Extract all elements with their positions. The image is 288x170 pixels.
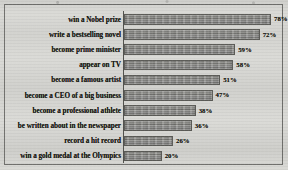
category-label: be written about in the newspaper (0, 122, 121, 130)
bar-with-value: 59% (124, 44, 252, 55)
bar-value-label: 36% (195, 122, 209, 130)
bar (124, 14, 271, 25)
category-label: record a hit record (0, 137, 121, 145)
category-label: win a Nobel prize (0, 16, 121, 24)
bar-row: become a famous artist51% (10, 73, 287, 88)
bar-row: win a gold medal at the Olympics20% (10, 149, 287, 164)
chart-frame: win a Nobel prize78%write a bestselling … (4, 4, 283, 165)
bar-row: be written about in the newspaper36% (10, 118, 287, 133)
category-label: become a CEO of a big business (0, 92, 121, 100)
bar (124, 90, 213, 101)
bar-value-label: 58% (236, 61, 250, 69)
bar-value-label: 51% (223, 76, 237, 84)
bar-value-label: 47% (216, 91, 230, 99)
bar-with-value: 38% (124, 105, 212, 116)
category-label: become a famous artist (0, 76, 121, 84)
bar-row: write a bestselling novel72% (10, 27, 287, 42)
bar-row: appear on TV58% (10, 58, 287, 73)
bar-row: become a CEO of a big business47% (10, 88, 287, 103)
plot-area: win a Nobel prize78%write a bestselling … (10, 11, 287, 168)
bar-value-label: 72% (263, 31, 277, 39)
bar-with-value: 20% (124, 151, 178, 162)
bar-row: record a hit record26% (10, 134, 287, 149)
bar-row: win a Nobel prize78% (10, 12, 287, 27)
bar-with-value: 58% (124, 60, 250, 71)
bar (124, 60, 233, 71)
bar (124, 75, 220, 86)
bar (124, 120, 192, 131)
bar-with-value: 36% (124, 120, 208, 131)
bar-with-value: 26% (124, 136, 190, 147)
bar-row: become a professional athlete38% (10, 103, 287, 118)
category-label: win a gold medal at the Olympics (0, 152, 121, 160)
bar-with-value: 72% (124, 29, 276, 40)
bar-value-label: 59% (238, 46, 252, 54)
bar (124, 105, 196, 116)
bar-value-label: 20% (165, 152, 179, 160)
chart-screenshot: win a Nobel prize78%write a bestselling … (0, 0, 288, 170)
bar (124, 44, 235, 55)
bar-with-value: 51% (124, 75, 237, 86)
category-label: write a bestselling novel (0, 31, 121, 39)
bar-value-label: 78% (274, 15, 288, 23)
category-label: become prime minister (0, 46, 121, 54)
bar-value-label: 38% (199, 107, 213, 115)
category-label: become a professional athlete (0, 107, 121, 115)
bar-with-value: 78% (124, 14, 288, 25)
bar (124, 136, 173, 147)
bar-row: become prime minister59% (10, 42, 287, 57)
category-label: appear on TV (0, 61, 121, 69)
bar-with-value: 47% (124, 90, 229, 101)
bar-value-label: 26% (176, 137, 190, 145)
bar (124, 151, 162, 162)
bar (124, 29, 260, 40)
